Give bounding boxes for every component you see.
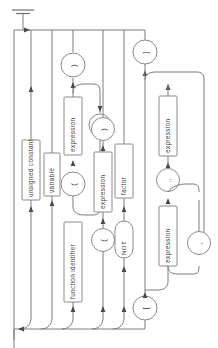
node-expression-2-label: expression xyxy=(99,174,107,209)
node-expression-1-label: expression xyxy=(69,117,77,152)
branch-variable: variable xyxy=(44,30,60,318)
branch-not-factor: factor NOT xyxy=(115,30,133,318)
terminal-not-label: NOT xyxy=(120,241,127,255)
node-unsigned-constant-label: unsigned constant xyxy=(27,139,35,197)
node-expression-4-label: expression xyxy=(164,228,172,263)
terminal-rbracket-set-label: ] xyxy=(141,51,150,53)
syntax-diagram-canvas: unsigned constant variable ) expression xyxy=(0,0,218,348)
node-expression-3-label: expression xyxy=(164,118,172,153)
start-terminus-marker xyxy=(12,10,34,30)
node-factor-label: factor xyxy=(120,176,127,195)
bottom-collection-rail xyxy=(14,318,145,348)
branch-set-constructor: ] expression .. expression , xyxy=(133,30,211,329)
branch-unsigned-constant: unsigned constant xyxy=(22,30,40,318)
node-variable-label: variable xyxy=(48,168,55,193)
node-function-identifier-label: function identifier xyxy=(69,244,76,299)
terminal-comma-range-label: , xyxy=(195,242,204,244)
terminal-range-dots-label: .. xyxy=(164,178,173,182)
branch-parenthesised-expression: ) expression ( xyxy=(92,30,115,318)
